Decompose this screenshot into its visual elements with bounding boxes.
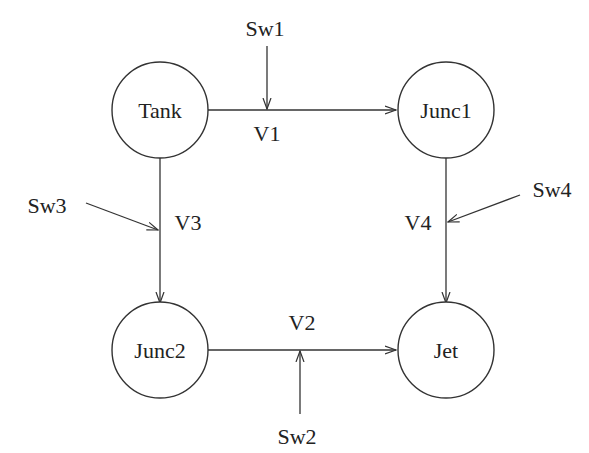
valve-label-v3: V3 xyxy=(175,210,202,235)
valve-label-v2: V2 xyxy=(289,310,316,335)
node-junc1: Junc1 xyxy=(398,62,494,158)
node-junc2: Junc2 xyxy=(112,302,208,398)
flow-diagram: Tank Junc1 Junc2 Jet V1 V2 V3 V4 Sw1 Sw2… xyxy=(0,0,589,453)
node-jet: Jet xyxy=(398,302,494,398)
switch-label-sw1: Sw1 xyxy=(245,16,284,41)
node-label-tank: Tank xyxy=(138,98,182,123)
switch-label-sw3: Sw3 xyxy=(27,193,66,218)
node-label-jet: Jet xyxy=(434,338,458,363)
switch-label-sw2: Sw2 xyxy=(277,424,316,449)
node-label-junc2: Junc2 xyxy=(134,338,185,363)
valve-label-v4: V4 xyxy=(405,210,432,235)
switch-arrow-sw3 xyxy=(86,203,158,230)
switch-label-sw4: Sw4 xyxy=(532,177,571,202)
node-tank: Tank xyxy=(112,62,208,158)
valve-label-v1: V1 xyxy=(254,121,281,146)
switch-arrow-sw4 xyxy=(448,195,520,222)
node-label-junc1: Junc1 xyxy=(420,98,471,123)
